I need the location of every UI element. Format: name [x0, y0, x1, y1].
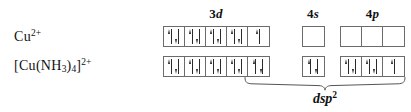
species-label-cu-nh3-4-2plus: [Cu(NH3)4]2+	[14, 57, 91, 74]
orbital-group-row0-4s	[302, 26, 325, 47]
spin-down-arrow-icon	[196, 59, 202, 74]
spin-down-arrow-icon	[175, 59, 181, 74]
spin-up-arrow-icon	[231, 29, 237, 44]
orbital-cell-row0-3d-2	[185, 27, 206, 46]
spin-down-arrow-icon	[314, 59, 320, 74]
spin-down-arrow-icon	[175, 29, 181, 44]
orbital-cell-row1-3d-1	[164, 57, 185, 76]
spin-up-arrow-icon	[168, 59, 174, 74]
orbital-cell-row1-4p-1	[341, 57, 362, 76]
electron-pair-icon	[303, 57, 324, 76]
brace-icon	[243, 77, 407, 91]
species-label-cu2plus: Cu2+	[14, 28, 41, 45]
electron-pair-icon	[227, 27, 247, 46]
orbital-cell-row1-4s-1	[303, 57, 324, 76]
orbital-group-row1-4p	[340, 56, 405, 77]
spin-up-arrow-icon	[252, 59, 258, 74]
header-4p-shell: 4	[366, 6, 373, 21]
species-symbol: Cu	[14, 29, 31, 44]
orbital-cell-row1-4p-2	[362, 57, 383, 76]
column-header-4p: 4p	[340, 6, 405, 22]
hybridization-label: dsp2	[243, 90, 407, 107]
spin-up-arrow-icon	[307, 59, 313, 74]
header-4p-orbital: p	[373, 6, 380, 21]
spin-up-arrow-icon	[210, 29, 216, 44]
spin-up-arrow-icon	[345, 59, 351, 74]
header-3d-orbital: d	[216, 6, 223, 21]
orbital-cell-row0-3d-3	[206, 27, 227, 46]
hybridization-base: dsp	[313, 91, 332, 106]
spin-up-arrow-icon	[366, 59, 372, 74]
spin-down-arrow-icon	[373, 59, 379, 74]
orbital-group-row0-3d	[163, 26, 270, 47]
header-4s-orbital: s	[314, 6, 319, 21]
orbital-cell-row0-4p-1	[341, 27, 362, 46]
electron-pair-icon	[227, 57, 247, 76]
electron-pair-icon	[206, 57, 226, 76]
single-electron-icon	[383, 57, 404, 76]
spin-up-arrow-icon	[210, 59, 216, 74]
orbital-cell-row0-3d-1	[164, 27, 185, 46]
spin-up-arrow-icon	[189, 29, 195, 44]
orbital-cell-row0-4p-3	[383, 27, 404, 46]
orbital-group-row1-4s	[302, 56, 325, 77]
electron-pair-icon	[362, 57, 382, 76]
orbital-cell-row1-3d-2	[185, 57, 206, 76]
electron-pair-icon	[341, 57, 361, 76]
complex-prefix: [Cu(NH	[14, 58, 62, 73]
single-electron-icon	[248, 27, 269, 46]
orbital-cell-row0-3d-4	[227, 27, 248, 46]
spin-down-arrow-icon	[217, 59, 223, 74]
header-4s-shell: 4	[307, 6, 314, 21]
header-3d-shell: 3	[209, 6, 216, 21]
orbital-cell-row1-4p-3	[383, 57, 404, 76]
column-header-4s: 4s	[302, 6, 324, 22]
column-header-3d: 3d	[163, 6, 269, 22]
species-charge: 2+	[31, 28, 41, 38]
orbital-diagram-figure: 3d 4s 4p Cu2+ [Cu(NH3)4]2+	[0, 0, 411, 112]
electron-pair-icon	[185, 27, 205, 46]
orbital-group-row0-4p	[340, 26, 405, 47]
spin-up-arrow-icon	[189, 59, 195, 74]
electron-pair-icon	[185, 57, 205, 76]
spin-up-arrow-icon	[168, 29, 174, 44]
spin-down-arrow-icon	[217, 29, 223, 44]
spin-up-arrow-icon	[256, 29, 262, 44]
electron-pair-icon	[206, 27, 226, 46]
spin-down-arrow-icon	[352, 59, 358, 74]
spin-down-arrow-icon	[238, 59, 244, 74]
spin-down-arrow-icon	[259, 59, 265, 74]
spin-up-arrow-icon	[231, 59, 237, 74]
hybridization-exponent: 2	[332, 90, 337, 100]
spin-down-arrow-icon	[196, 29, 202, 44]
spin-up-arrow-icon	[391, 59, 397, 74]
orbital-cell-row1-3d-3	[206, 57, 227, 76]
electron-pair-icon	[248, 57, 269, 76]
orbital-cell-row1-3d-4	[227, 57, 248, 76]
orbital-cell-row0-4p-2	[362, 27, 383, 46]
orbital-cell-row0-4s-1	[303, 27, 324, 46]
hybridization-brace	[243, 77, 407, 91]
spin-down-arrow-icon	[238, 29, 244, 44]
orbital-cell-row0-3d-5	[248, 27, 269, 46]
complex-charge: 2+	[81, 57, 91, 67]
electron-pair-icon	[164, 27, 184, 46]
orbital-cell-row1-3d-5	[248, 57, 269, 76]
orbital-group-row1-3d	[163, 56, 270, 77]
electron-pair-icon	[164, 57, 184, 76]
